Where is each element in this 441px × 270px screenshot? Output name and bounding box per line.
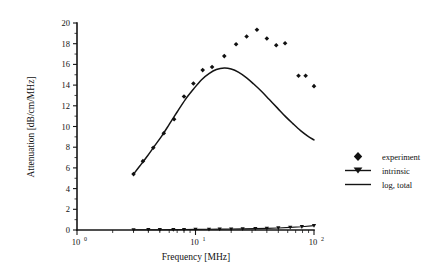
experiment-data-point [200,68,205,73]
legend-label-log-total: log, total [382,180,413,190]
experiment-data-point [255,27,260,32]
legend-entry-intrinsic: intrinsic [345,166,410,176]
chart-legend: experiment intrinsic log, total [345,152,421,190]
experiment-data-point [274,43,279,48]
x-tick-exponent: 2 [321,236,324,242]
x-tick-mantissa: 10 [72,237,81,247]
y-tick-label: 8 [66,142,70,152]
experiment-data-point [191,81,196,86]
experiment-data-point [296,73,301,78]
chart-figure: 02468101214161820 100101102 Frequency [M… [0,0,441,270]
log-total-curve [134,68,314,174]
y-tick-label: 18 [62,39,71,49]
y-tick-label: 20 [62,18,71,28]
y-tick-label: 12 [62,101,71,111]
experiment-data-point [172,117,177,122]
legend-label-intrinsic: intrinsic [382,166,410,176]
x-tick-label: 101 [190,236,205,247]
y-tick-label: 10 [62,122,71,132]
x-tick-exponent: 0 [84,236,87,242]
x-axis-title: Frequency [MHz] [162,252,230,262]
y-tick-label: 0 [66,225,70,235]
y-axis-ticks [73,23,77,230]
y-tick-label: 6 [66,163,70,173]
x-tick-mantissa: 10 [309,237,318,247]
series-log-total [134,68,314,174]
y-tick-label: 14 [62,80,71,90]
series-intrinsic [131,224,316,232]
experiment-data-point [210,65,215,70]
legend-entry-experiment: experiment [354,152,421,162]
x-tick-label: 102 [309,236,324,247]
experiment-data-point [265,36,270,41]
y-axis-tick-labels: 02468101214161820 [62,18,71,235]
experiment-data-point [222,54,227,59]
series-experiment [131,27,316,176]
x-tick-mantissa: 10 [190,237,199,247]
axes [77,23,314,230]
y-tick-label: 16 [62,59,71,69]
experiment-data-point [244,34,249,39]
experiment-data-point [234,42,239,47]
y-tick-label: 2 [66,204,70,214]
attenuation-vs-frequency-chart: 02468101214161820 100101102 Frequency [M… [0,0,441,270]
x-tick-label: 100 [72,236,87,247]
experiment-data-point [283,41,288,46]
x-axis-tick-labels: 100101102 [72,236,324,247]
legend-label-experiment: experiment [382,152,421,162]
experiment-data-point [303,73,308,78]
legend-entry-log-total: log, total [345,180,413,190]
diamond-icon [354,152,362,161]
y-axis-title: Attenuation [dB/cm/MHz] [26,76,36,177]
experiment-data-point [312,84,317,89]
y-tick-label: 4 [66,184,71,194]
x-tick-exponent: 1 [203,236,206,242]
